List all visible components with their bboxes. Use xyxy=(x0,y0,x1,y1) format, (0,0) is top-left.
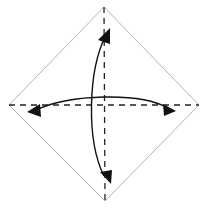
fold-diagram xyxy=(0,0,201,210)
